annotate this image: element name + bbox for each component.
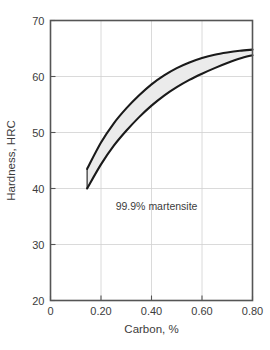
y-tick-label: 30 bbox=[32, 239, 44, 251]
y-tick-label: 40 bbox=[32, 183, 44, 195]
y-axis-title: Hardness, HRC bbox=[5, 120, 17, 201]
x-axis-title: Carbon, % bbox=[124, 323, 178, 335]
y-tick-label: 50 bbox=[32, 127, 44, 139]
y-tick-label: 60 bbox=[32, 71, 44, 83]
hardness-vs-carbon-chart: 00.200.400.600.80 203040506070 Carbon, %… bbox=[0, 0, 270, 350]
x-tick-label: 0 bbox=[47, 305, 53, 317]
x-tick-label: 0.20 bbox=[90, 305, 111, 317]
x-tick-label: 0.40 bbox=[141, 305, 162, 317]
chart-figure: 00.200.400.600.80 203040506070 Carbon, %… bbox=[0, 0, 270, 350]
x-tick-label: 0.60 bbox=[191, 305, 212, 317]
y-tick-label: 20 bbox=[32, 295, 44, 307]
y-tick-label: 70 bbox=[32, 15, 44, 27]
chart-annotation: 99.9% martensite bbox=[116, 200, 198, 212]
x-tick-label: 0.80 bbox=[242, 305, 263, 317]
annotations-group: 99.9% martensite bbox=[116, 200, 198, 212]
